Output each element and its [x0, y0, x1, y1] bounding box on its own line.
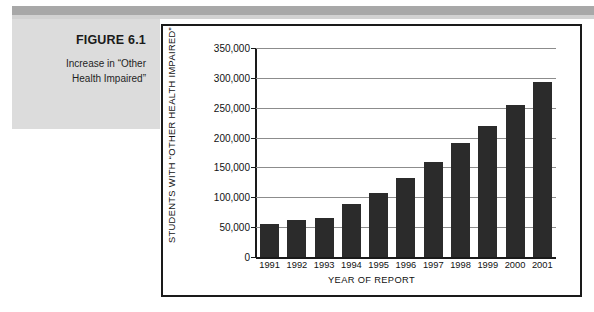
y-axis-tick-mark	[251, 257, 256, 258]
y-axis-tick-label: 150,000	[186, 162, 250, 173]
bar-slot	[256, 48, 283, 257]
gridline	[256, 257, 556, 259]
x-axis-tick-labels: 1991199219931994199519961997199819992000…	[256, 260, 556, 270]
x-axis-tick-label: 1997	[420, 260, 447, 270]
x-axis-tick-label: 1992	[283, 260, 310, 270]
bar-2001	[533, 82, 552, 257]
bar-1992	[287, 220, 306, 257]
bar-1994	[342, 204, 361, 257]
y-axis-title: STUDENTS WITH “OTHER HEALTH IMPAIRED”	[167, 15, 177, 255]
bar-1998	[451, 143, 470, 257]
x-axis-tick-label: 1995	[365, 260, 392, 270]
bar-1991	[260, 224, 279, 257]
bar-slot	[311, 48, 338, 257]
bar-slot	[501, 48, 528, 257]
y-axis-tick-label: 250,000	[186, 102, 250, 113]
figure-title: Increase in “Other Health Impaired”	[22, 57, 146, 86]
bar-2000	[506, 105, 525, 257]
x-axis-tick-label: 1991	[256, 260, 283, 270]
chart-frame: STUDENTS WITH “OTHER HEALTH IMPAIRED” 05…	[161, 24, 582, 297]
figure-number: FIGURE 6.1	[22, 33, 146, 48]
bar-slot	[283, 48, 310, 257]
x-axis-tick-label: 1994	[338, 260, 365, 270]
bar-slot	[447, 48, 474, 257]
decorative-top-band	[12, 6, 594, 15]
x-axis-tick-label: 1998	[447, 260, 474, 270]
bar-slot	[474, 48, 501, 257]
y-axis-tick-label: 300,000	[186, 72, 250, 83]
x-axis-tick-label: 1993	[311, 260, 338, 270]
y-axis-tick-label: 100,000	[186, 192, 250, 203]
figure-title-line-2: Health Impaired”	[72, 73, 146, 84]
x-axis-tick-label: 2001	[529, 260, 556, 270]
bar-1993	[315, 218, 334, 257]
bar-slot	[529, 48, 556, 257]
y-axis-tick-label: 0	[186, 252, 250, 263]
bar-slot	[420, 48, 447, 257]
x-axis-tick-label: 2000	[501, 260, 528, 270]
bar-1996	[396, 178, 415, 257]
y-axis-tick-label: 50,000	[186, 222, 250, 233]
bar-1997	[424, 162, 443, 257]
figure-caption-block: FIGURE 6.1 Increase in “Other Health Imp…	[12, 19, 160, 129]
y-axis-tick-label: 350,000	[186, 43, 250, 54]
bar-slot	[365, 48, 392, 257]
x-axis-tick-label: 1996	[392, 260, 419, 270]
x-axis-title: YEAR OF REPORT	[163, 275, 580, 285]
bar-1999	[478, 126, 497, 257]
y-axis-tick-label: 200,000	[186, 132, 250, 143]
figure-title-line-1: Increase in “Other	[66, 58, 146, 69]
plot-area: 050,000100,000150,000200,000250,000300,0…	[256, 48, 556, 257]
bar-series	[256, 48, 556, 257]
bar-1995	[369, 193, 388, 257]
bar-slot	[338, 48, 365, 257]
x-axis-tick-label: 1999	[474, 260, 501, 270]
bar-slot	[392, 48, 419, 257]
